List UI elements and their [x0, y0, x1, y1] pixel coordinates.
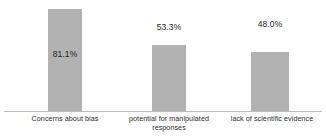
x-axis-label-0: Concerns about bias — [10, 115, 120, 124]
x-axis-label-1-line-1: responses — [112, 124, 226, 133]
bar-concerns-about-bias — [48, 9, 82, 111]
bar-value-label-2: 48.0% — [251, 19, 289, 29]
x-axis-label-2: lack of scientific evidence — [222, 115, 322, 124]
bar-value-label-0: 81.1% — [48, 49, 82, 59]
x-axis-label-0-line-0: Concerns about bias — [10, 115, 120, 124]
x-axis-label-1: potential for manipulated responses — [112, 115, 226, 132]
bar-value-label-1: 53.3% — [152, 22, 186, 32]
x-axis-category-labels: Concerns about bias potential for manipu… — [0, 114, 326, 140]
bar-chart: 81.1% 53.3% 48.0% Concerns about bias po… — [0, 0, 326, 140]
bar-potential-for-manipulated-responses — [152, 45, 186, 111]
x-axis-label-2-line-0: lack of scientific evidence — [222, 115, 322, 124]
bar-lack-of-scientific-evidence — [251, 52, 289, 111]
plot-area: 81.1% 53.3% 48.0% — [0, 0, 326, 112]
x-axis-baseline — [4, 111, 322, 112]
